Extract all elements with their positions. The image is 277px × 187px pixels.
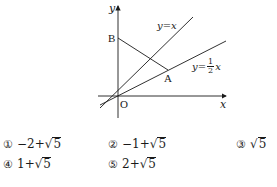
radical-sign-icon: √ bbox=[250, 137, 258, 151]
sqrt-expression: √5 bbox=[140, 157, 156, 171]
line-y-equals-x bbox=[100, 17, 193, 108]
radical-sign-icon: √ bbox=[150, 137, 158, 151]
point-A-label: A bbox=[164, 73, 172, 84]
choice-marker: ⑤ bbox=[108, 158, 118, 171]
label-y-equals-half-x: y= 1 2 x bbox=[192, 58, 221, 75]
radical-sign-icon: √ bbox=[35, 157, 43, 171]
choice-1[interactable]: ① −2+ √5 bbox=[3, 137, 61, 151]
sqrt-expression: √5 bbox=[150, 137, 166, 151]
segment-BA bbox=[118, 38, 168, 70]
y-axis-label: y bbox=[109, 3, 115, 14]
sqrt-expression: √5 bbox=[250, 137, 266, 151]
diagram-svg bbox=[0, 0, 277, 135]
radical-sign-icon: √ bbox=[140, 157, 148, 171]
choice-prefix: −1+ bbox=[122, 137, 150, 151]
point-B-label: B bbox=[108, 33, 115, 44]
choice-prefix: 2+ bbox=[122, 157, 140, 171]
choice-marker: ④ bbox=[3, 158, 13, 171]
fraction-one-half: 1 2 bbox=[207, 58, 214, 75]
radical-sign-icon: √ bbox=[45, 137, 53, 151]
choice-2[interactable]: ② −1+ √5 bbox=[108, 137, 166, 151]
choice-4[interactable]: ④ 1+ √5 bbox=[3, 157, 51, 171]
choice-marker: ② bbox=[108, 138, 118, 151]
choice-3[interactable]: ③ √5 bbox=[236, 137, 266, 151]
origin-label: O bbox=[120, 99, 128, 110]
x-axis-label: x bbox=[220, 99, 226, 110]
sqrt-expression: √5 bbox=[35, 157, 51, 171]
choice-5[interactable]: ⑤ 2+ √5 bbox=[108, 157, 156, 171]
choice-prefix: −2+ bbox=[17, 137, 45, 151]
coordinate-diagram: y x O B A y=x y= 1 2 x bbox=[0, 0, 277, 135]
choice-prefix: 1+ bbox=[17, 157, 35, 171]
choice-marker: ① bbox=[3, 138, 13, 151]
label-y-equals-x: y=x bbox=[157, 21, 177, 31]
sqrt-expression: √5 bbox=[45, 137, 61, 151]
choice-marker: ③ bbox=[236, 138, 246, 151]
